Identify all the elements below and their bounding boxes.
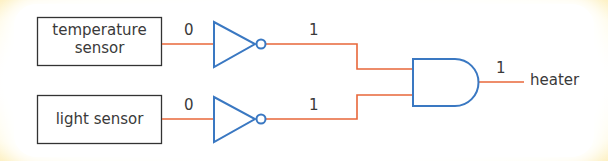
not-gate-bubble-icon bbox=[257, 115, 266, 124]
light-sensor-label: light sensor bbox=[38, 110, 161, 128]
wire-not1-to-and bbox=[266, 44, 413, 69]
light-signal-value: 0 bbox=[184, 98, 194, 113]
not1-output-value: 1 bbox=[309, 23, 319, 38]
heater-label: heater bbox=[530, 73, 579, 88]
not-gate-triangle-icon bbox=[214, 97, 255, 142]
not-gate-2 bbox=[214, 97, 266, 142]
not-gate-bubble-icon bbox=[257, 40, 266, 49]
light-sensor-label-line1: light sensor bbox=[38, 110, 161, 128]
temperature-signal-value: 0 bbox=[184, 23, 194, 38]
temperature-sensor-label-line1: temperature bbox=[38, 21, 161, 39]
and-gate-icon bbox=[413, 59, 479, 106]
and-output-value: 1 bbox=[496, 61, 506, 76]
not-gate-triangle-icon bbox=[214, 22, 255, 67]
wire-not2-to-and bbox=[266, 95, 413, 119]
not2-output-value: 1 bbox=[309, 98, 319, 113]
temperature-sensor-label-line2: sensor bbox=[38, 39, 161, 57]
not-gate-1 bbox=[214, 22, 266, 67]
temperature-sensor-label: temperature sensor bbox=[38, 21, 161, 57]
